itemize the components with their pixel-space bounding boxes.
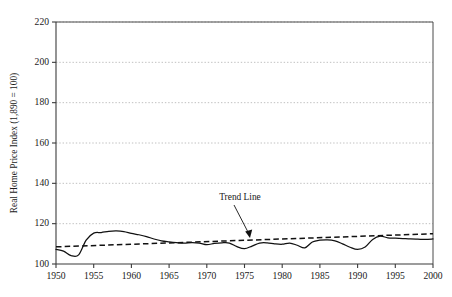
y-axis-ticks: 100120140160180200220 [35,16,56,269]
y-tick-label: 100 [35,258,50,269]
figure-container: 100120140160180200220 195019551960196519… [0,0,452,297]
y-tick-label: 140 [35,177,50,188]
x-tick-label: 1960 [122,270,141,281]
trend-line-annotation-arrowhead [245,230,252,238]
home-price-index-chart: 100120140160180200220 195019551960196519… [0,0,452,297]
x-tick-label: 1970 [197,270,216,281]
trend-line-annotation: Trend Line [219,192,261,238]
x-tick-label: 1980 [273,270,292,281]
x-tick-label: 1955 [84,270,103,281]
y-tick-label: 120 [35,217,50,228]
y-tick-label: 180 [35,96,50,107]
trend-line-series [56,234,433,247]
x-tick-label: 1950 [46,270,65,281]
y-tick-label: 160 [35,137,50,148]
x-axis-ticks: 1950195519601965197019751980198519901995… [46,264,442,281]
y-tick-label: 220 [35,16,50,27]
trend-line-annotation-arrow [234,205,249,234]
y-tick-label: 200 [35,56,50,67]
x-tick-label: 1985 [310,270,329,281]
y-axis-title: Real Home Price Index (1,890 = 100) [9,73,20,213]
x-tick-label: 1975 [235,270,254,281]
trend-line-annotation-label: Trend Line [219,192,261,202]
x-tick-label: 1965 [160,270,179,281]
home-price-index-series [56,231,433,257]
x-tick-label: 1990 [348,270,367,281]
x-tick-label: 2000 [423,270,442,281]
x-tick-label: 1995 [386,270,405,281]
